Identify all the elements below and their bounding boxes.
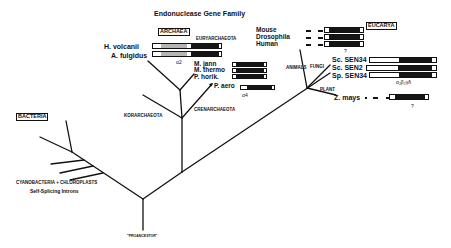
alpha2-annotation: α2	[176, 60, 182, 65]
diagram-title: Endonuclease Gene Family	[154, 10, 245, 17]
sc-sen34-bar	[369, 57, 437, 63]
dark-domain-segment	[236, 63, 264, 66]
cyanobacteria-label: CYANOBACTERIA + CHLOROPLASTS	[16, 181, 97, 186]
sc-sen2-bar	[366, 65, 437, 71]
cyano-twig-2	[60, 166, 93, 173]
dark-domain-segment	[329, 28, 360, 32]
species-human: Human	[256, 41, 278, 48]
gap-dash	[318, 44, 323, 46]
fungi-label: FUNGI	[310, 65, 324, 70]
ae-trunk	[143, 172, 182, 199]
species-p-horik: P. horik.	[194, 74, 219, 81]
euryarchaeota-right	[180, 74, 194, 90]
crenarchaeota-label: CRENARCHAEOTA	[194, 108, 235, 113]
gap-dash	[373, 97, 378, 99]
bacteria-label: BACTERIA	[16, 113, 48, 121]
dark-domain-segment	[191, 52, 219, 56]
species-sc-sen34: Sc. SEN34	[332, 56, 367, 63]
bacteria-twig-1	[40, 137, 72, 152]
fungi-subunit-annotation: α₂β₂γδ	[396, 80, 411, 85]
sp-sen34-bar	[369, 72, 437, 78]
korarchaeota-label: KORARCHAEOTA	[124, 114, 162, 119]
species-sp-sen34: Sp. SEN34	[332, 72, 367, 79]
gap-dash	[318, 37, 323, 39]
cyano-twig-3	[70, 173, 103, 180]
species-z-mays: Z. mays	[334, 94, 360, 101]
animals-label: ANIMALS	[286, 66, 307, 71]
root-ancestor-label: "PROANCESTOR"	[127, 235, 157, 239]
gap-dash	[318, 30, 323, 32]
gap-dash	[306, 30, 311, 32]
dark-domain-segment	[395, 95, 425, 99]
bacteria-twig-2	[66, 121, 72, 152]
euryarchaeota-label: EURYARCHAEOTA	[196, 37, 236, 42]
h-volcanii-bar	[152, 43, 222, 49]
gray-domain-segment	[161, 52, 187, 56]
species-p-aero: P. aero	[214, 83, 235, 90]
gray-domain-segment	[161, 44, 187, 48]
alpha4-annotation: α4	[242, 93, 248, 98]
z-mays-bar	[389, 94, 429, 100]
a-fulgidus-bar	[152, 51, 222, 57]
dark-domain-segment	[191, 44, 219, 48]
archaea-label: ARCHAEA	[158, 28, 190, 36]
m-thermo-bar	[232, 68, 267, 73]
species-a-fulgidus: A. fulgidus	[111, 52, 147, 59]
plant-label: PLANT	[320, 88, 335, 93]
animals-unknown-annotation: ?	[344, 49, 347, 54]
dark-domain-segment	[398, 66, 432, 70]
euryarchaeota-stem	[180, 90, 182, 118]
dark-domain-segment	[399, 58, 432, 62]
eucarya-label: EUCARYA	[366, 22, 397, 30]
dark-domain-segment	[399, 73, 432, 77]
m-jann-bar	[232, 62, 267, 67]
cyano-twig-1	[51, 160, 84, 164]
human-bar	[324, 41, 364, 47]
dark-domain-segment	[329, 35, 360, 39]
euryarchaeota-left	[148, 61, 180, 90]
dark-domain-segment	[247, 86, 272, 89]
dark-domain-segment	[236, 69, 264, 72]
crenarchaeota-branch	[182, 84, 212, 118]
gap-dot	[365, 97, 367, 99]
p-horik-bar	[232, 74, 267, 79]
mouse-bar	[324, 27, 364, 33]
gap-dash	[306, 37, 311, 39]
species-sc-sen2: Sc. SEN2	[332, 64, 363, 71]
self-splicing-introns-label: Self-Splicing Introns	[30, 189, 79, 194]
p-aero-bar	[240, 85, 275, 90]
zmays-unknown-annotation: ?	[411, 104, 414, 109]
bacteria-branch	[72, 152, 143, 199]
drosophila-bar	[324, 34, 364, 40]
dark-domain-segment	[236, 75, 264, 78]
gap-dash	[306, 44, 311, 46]
dark-domain-segment	[329, 42, 360, 46]
species-h-volcanii: H. volcanii	[104, 43, 139, 50]
